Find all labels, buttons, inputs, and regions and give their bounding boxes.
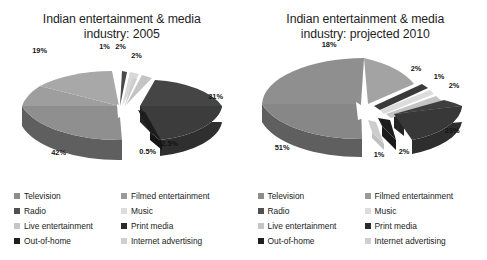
pct-label-internet-2010: 1% — [374, 150, 385, 159]
pct-label-live-2005: 2% — [131, 51, 142, 60]
legend-label-music: Music — [131, 206, 153, 216]
chart-page: Indian entertainment & media industry: 2… — [0, 0, 487, 260]
pct-label-live-2010: 2% — [449, 81, 460, 90]
legend-swatch-television-icon — [14, 193, 20, 199]
pct-label-outofhome-2005: 2.5% — [161, 139, 178, 148]
legend-swatch-music-icon — [365, 208, 371, 214]
legend-item-print-media[interactable]: Print media — [121, 218, 232, 233]
legend-item-television[interactable]: Television — [14, 188, 121, 203]
legend-swatch-internet-advertising-icon — [365, 238, 371, 244]
pct-label-print-2010: 51% — [275, 143, 290, 152]
legend-swatch-live-entertainment-icon — [258, 223, 264, 229]
legend-label-radio: Radio — [24, 206, 46, 216]
legend-swatch-out-of-home-icon — [14, 238, 20, 244]
title-line-2: industry: projected 2010 — [258, 27, 473, 42]
chart-panel-2010: Indian entertainment & media industry: p… — [244, 0, 487, 260]
legend-2005: Television Filmed entertainment Radio Mu… — [14, 188, 232, 248]
legend-swatch-print-media-icon — [365, 223, 371, 229]
legend-item-live-entertainment[interactable]: Live entertainment — [258, 218, 365, 233]
page-title-2010: Indian entertainment & media industry: p… — [258, 12, 473, 42]
pct-label-radio-2005: 1% — [99, 42, 110, 51]
title-line-1: Indian entertainment & media — [258, 12, 473, 27]
legend-label-radio: Radio — [268, 206, 290, 216]
legend-item-filmed-entertainment[interactable]: Filmed entertainment — [365, 188, 476, 203]
legend-label-television: Television — [24, 191, 61, 201]
pct-label-television-2005: 31% — [208, 92, 223, 101]
slice-print-media — [262, 58, 364, 104]
legend-label-television: Television — [268, 191, 305, 201]
pct-label-filmed-2010: 18% — [322, 40, 337, 49]
center-gap — [356, 102, 376, 120]
pie-chart-2010: 18% 2% 1% 2% 23% 2% 1% 51% — [244, 44, 487, 164]
legend-item-music[interactable]: Music — [365, 203, 476, 218]
pct-label-outofhome-2010: 2% — [399, 147, 410, 156]
legend-item-radio[interactable]: Radio — [14, 203, 121, 218]
legend-item-out-of-home[interactable]: Out-of-home — [14, 233, 121, 248]
legend-label-internet-advertising: Internet advertising — [131, 236, 202, 246]
legend-item-filmed-entertainment[interactable]: Filmed entertainment — [121, 188, 232, 203]
pct-label-music-2010: 1% — [434, 72, 445, 81]
legend-item-radio[interactable]: Radio — [258, 203, 365, 218]
legend-swatch-radio-icon — [258, 208, 264, 214]
legend-item-print-media[interactable]: Print media — [365, 218, 476, 233]
legend-swatch-radio-icon — [14, 208, 20, 214]
pct-label-print-2005: 42% — [51, 148, 66, 157]
legend-swatch-television-icon — [258, 193, 264, 199]
legend-label-out-of-home: Out-of-home — [24, 236, 71, 246]
legend-swatch-out-of-home-icon — [258, 238, 264, 244]
legend-label-live-entertainment: Live entertainment — [268, 221, 337, 231]
pct-label-music-2005: 2% — [115, 42, 126, 51]
pct-label-internet-2005: 0.5% — [139, 147, 156, 156]
chart-panel-2005: Indian entertainment & media industry: 2… — [0, 0, 244, 260]
legend-item-internet-advertising[interactable]: Internet advertising — [121, 233, 232, 248]
legend-label-out-of-home: Out-of-home — [268, 236, 315, 246]
legend-swatch-filmed-entertainment-icon — [365, 193, 371, 199]
page-title-2005: Indian entertainment & media industry: 2… — [14, 12, 229, 42]
legend-item-live-entertainment[interactable]: Live entertainment — [14, 218, 121, 233]
legend-swatch-filmed-entertainment-icon — [121, 193, 127, 199]
legend-label-music: Music — [375, 206, 397, 216]
legend-label-filmed-entertainment: Filmed entertainment — [375, 191, 454, 201]
center-gap — [117, 104, 130, 118]
legend-swatch-internet-advertising-icon — [121, 238, 127, 244]
title-line-2: industry: 2005 — [14, 27, 229, 42]
legend-item-music[interactable]: Music — [121, 203, 232, 218]
legend-swatch-live-entertainment-icon — [14, 223, 20, 229]
legend-swatch-print-media-icon — [121, 223, 127, 229]
pct-label-radio-2010: 2% — [411, 64, 422, 73]
legend-label-live-entertainment: Live entertainment — [24, 221, 93, 231]
legend-label-print-media: Print media — [131, 221, 173, 231]
pie-svg-2005 — [0, 44, 243, 164]
legend-item-out-of-home[interactable]: Out-of-home — [258, 233, 365, 248]
pie-chart-2005: 19% 1% 2% 2% 31% 2.5% 0.5% 42% — [0, 44, 243, 164]
title-line-1: Indian entertainment & media — [14, 12, 229, 27]
legend-swatch-music-icon — [121, 208, 127, 214]
pct-label-filmed-2005: 19% — [32, 46, 47, 55]
legend-2010: Television Filmed entertainment Radio Mu… — [258, 188, 476, 248]
legend-label-internet-advertising: Internet advertising — [375, 236, 446, 246]
legend-label-print-media: Print media — [375, 221, 417, 231]
pct-label-television-2010: 23% — [445, 126, 460, 135]
legend-item-internet-advertising[interactable]: Internet advertising — [365, 233, 476, 248]
legend-label-filmed-entertainment: Filmed entertainment — [131, 191, 210, 201]
legend-item-television[interactable]: Television — [258, 188, 365, 203]
